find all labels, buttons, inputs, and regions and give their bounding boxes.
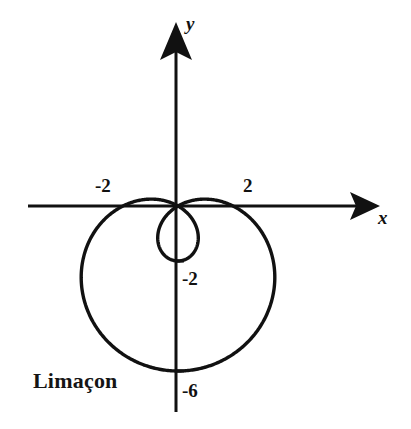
x-axis-label: x	[378, 208, 388, 227]
figure-caption: Limaçon	[33, 370, 118, 392]
limacon-curve	[81, 199, 275, 371]
tick-label-y-neg-2: -2	[182, 269, 198, 288]
y-axis-label: y	[186, 14, 194, 33]
polar-plot-canvas	[0, 0, 411, 429]
tick-label-y-neg-6: -6	[182, 381, 198, 400]
limacon-figure: y x -2 2 -2 -6 Limaçon	[0, 0, 411, 429]
tick-label-x-neg-2: -2	[95, 176, 111, 195]
tick-label-x-pos-2: 2	[243, 176, 253, 195]
